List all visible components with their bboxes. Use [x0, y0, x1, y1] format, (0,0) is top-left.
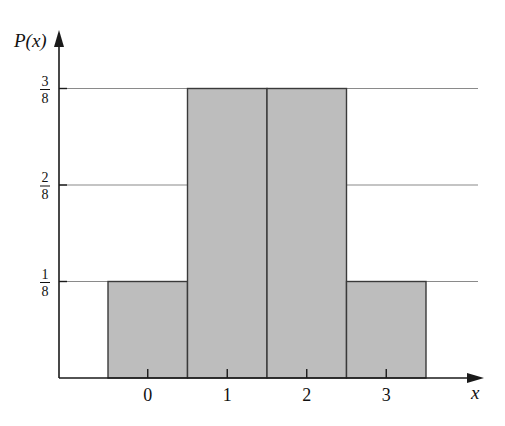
x-tick-label: 1 [223, 385, 232, 405]
bar-1 [188, 89, 268, 379]
bars [108, 89, 426, 379]
svg-text:8: 8 [42, 284, 49, 299]
bar-0 [108, 282, 188, 379]
y-axis-arrow-icon [54, 30, 64, 47]
svg-text:1: 1 [42, 267, 49, 282]
y-tick-label: 38 [40, 74, 50, 106]
x-tick-label: 2 [302, 385, 311, 405]
svg-text:8: 8 [42, 91, 49, 106]
x-axis-label: x [470, 382, 480, 403]
y-axis-label: P(x) [13, 30, 47, 52]
probability-histogram: 182838 0123 P(x) x [0, 0, 505, 426]
svg-text:8: 8 [42, 187, 49, 202]
x-tick-label: 0 [143, 385, 152, 405]
x-tick-label: 3 [382, 385, 391, 405]
svg-text:3: 3 [42, 74, 49, 89]
y-tick-label: 28 [40, 170, 50, 202]
bar-3 [347, 282, 427, 379]
y-tick-labels: 182838 [40, 74, 50, 299]
y-tick-label: 18 [40, 267, 50, 299]
bar-2 [267, 89, 347, 379]
svg-text:2: 2 [42, 170, 49, 185]
